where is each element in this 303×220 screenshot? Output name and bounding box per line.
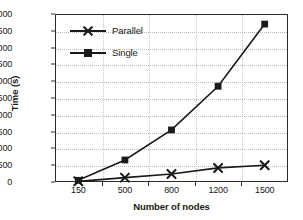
legend-item-single: Single — [70, 42, 143, 64]
gridline-vertical — [196, 15, 197, 181]
gridline-horizontal — [56, 149, 287, 150]
y-axis-tick-mark — [51, 47, 55, 48]
x-axis-tick-label: 1500 — [255, 186, 274, 195]
gridline-horizontal — [56, 166, 287, 167]
line-chart: 0500100015002000250030003500400045005000… — [0, 0, 303, 220]
gridline-horizontal — [56, 65, 287, 66]
gridline-vertical — [149, 15, 150, 181]
x-axis-tick-mark — [102, 182, 103, 186]
x-axis-tick-label: 500 — [118, 186, 132, 195]
y-axis-tick-mark — [51, 131, 55, 132]
y-axis-tick-label: 1000 — [0, 144, 12, 153]
y-axis-tick-mark — [51, 182, 55, 183]
y-axis-title: Time (s) — [9, 54, 20, 134]
y-axis-tick-label: 500 — [0, 161, 12, 170]
y-axis-tick-label: 4000 — [0, 43, 12, 52]
y-axis-tick-label: 5000 — [0, 10, 12, 19]
gridline-horizontal — [56, 116, 287, 117]
x-axis-tick-label: 150 — [71, 186, 85, 195]
y-axis-tick-mark — [51, 165, 55, 166]
legend-label-parallel: Parallel — [112, 26, 143, 36]
x-axis-tick-mark — [148, 182, 149, 186]
y-axis-tick-mark — [51, 14, 55, 15]
legend-key-square-marker-icon — [70, 47, 106, 59]
x-axis-title: Number of nodes — [55, 201, 288, 212]
legend-key-x-marker-icon — [70, 25, 106, 37]
legend-item-parallel: Parallel — [70, 20, 143, 42]
y-axis-tick-mark — [51, 64, 55, 65]
x-axis-tick-mark — [241, 182, 242, 186]
y-axis-tick-mark — [51, 148, 55, 149]
legend: Parallel Single — [70, 20, 143, 64]
y-axis-tick-mark — [51, 98, 55, 99]
y-axis-tick-label: 4500 — [0, 26, 12, 35]
legend-label-single: Single — [112, 48, 138, 58]
x-axis-tick-label: 800 — [164, 186, 178, 195]
y-axis-tick-label: 0 — [0, 178, 12, 187]
gridline-vertical — [242, 15, 243, 181]
gridline-horizontal — [56, 99, 287, 100]
y-axis-tick-mark — [51, 81, 55, 82]
x-axis-tick-label: 1200 — [208, 186, 227, 195]
gridline-horizontal — [56, 133, 287, 134]
x-axis-tick-mark — [195, 182, 196, 186]
gridline-horizontal — [56, 82, 287, 83]
y-axis-tick-mark — [51, 30, 55, 31]
y-axis-tick-mark — [51, 114, 55, 115]
